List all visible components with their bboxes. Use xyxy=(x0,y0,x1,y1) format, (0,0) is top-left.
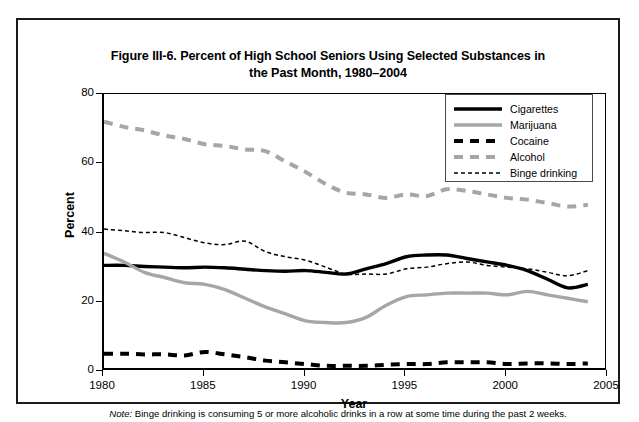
x-axis-tick-label: 1995 xyxy=(379,379,429,391)
legend-swatch-icon xyxy=(453,166,503,180)
x-axis-tick-mark xyxy=(404,370,405,376)
chart-legend: CigarettesMarijuanaCocaineAlcoholBinge d… xyxy=(445,94,593,182)
y-axis-tick-mark xyxy=(96,162,102,163)
legend-swatch-icon xyxy=(453,134,503,148)
series-line-cigarettes xyxy=(104,255,588,288)
x-axis-tick-mark xyxy=(606,370,607,376)
legend-label: Cocaine xyxy=(510,135,549,147)
figure-note: Note: Binge drinking is consuming 5 or m… xyxy=(58,408,618,419)
x-axis-tick-label: 1990 xyxy=(279,379,329,391)
legend-swatch-icon xyxy=(453,150,503,164)
x-axis-tick-label: 1980 xyxy=(77,379,127,391)
legend-swatch-icon xyxy=(453,118,503,132)
y-axis-tick-label: 20 xyxy=(60,295,94,306)
note-label: Note: xyxy=(109,408,132,419)
y-axis-tick-label: 0 xyxy=(60,364,94,375)
chart-title-line1: Figure III-6. Percent of High School Sen… xyxy=(111,49,545,63)
y-axis-title: Percent xyxy=(63,155,77,275)
page-title: Figure III-6. Percent of High School Sen… xyxy=(78,48,578,82)
y-axis-tick-label: 60 xyxy=(60,156,94,167)
x-axis-tick-mark xyxy=(505,370,506,376)
legend-item-binge-drinking[interactable]: Binge drinking xyxy=(446,165,592,181)
x-axis-tick-label: 1985 xyxy=(178,379,228,391)
legend-item-marijuana[interactable]: Marijuana xyxy=(446,117,592,133)
legend-item-cocaine[interactable]: Cocaine xyxy=(446,133,592,149)
x-axis-tick-mark xyxy=(304,370,305,376)
y-axis-tick-mark xyxy=(96,301,102,302)
legend-label: Marijuana xyxy=(510,119,557,131)
legend-item-alcohol[interactable]: Alcohol xyxy=(446,149,592,165)
y-axis-tick-label: 80 xyxy=(60,87,94,98)
y-axis-tick-mark xyxy=(96,93,102,94)
y-axis-tick-mark xyxy=(96,232,102,233)
figure-frame: Figure III-6. Percent of High School Sen… xyxy=(16,18,620,404)
chart-title-line2: the Past Month, 1980–2004 xyxy=(249,66,407,80)
legend-item-cigarettes[interactable]: Cigarettes xyxy=(446,101,592,117)
x-axis-tick-mark xyxy=(203,370,204,376)
x-axis-tick-label: 2000 xyxy=(480,379,530,391)
legend-label: Alcohol xyxy=(510,151,545,163)
series-line-marijuana xyxy=(104,253,588,323)
x-axis-tick-mark xyxy=(102,370,103,376)
y-axis-tick-label: 40 xyxy=(60,226,94,237)
legend-swatch-icon xyxy=(453,102,503,116)
note-text: Binge drinking is consuming 5 or more al… xyxy=(135,408,567,419)
series-line-cocaine xyxy=(104,352,588,366)
legend-label: Binge drinking xyxy=(510,167,577,179)
legend-label: Cigarettes xyxy=(510,103,558,115)
x-axis-tick-label: 2005 xyxy=(581,379,631,391)
